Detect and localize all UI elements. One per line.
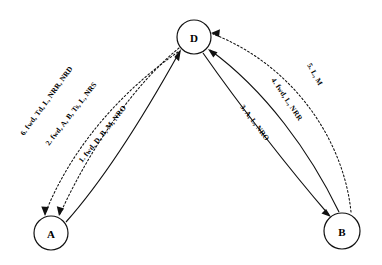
node-b-label: B [338, 226, 346, 238]
node-b[interactable]: B [324, 213, 360, 249]
edge-6-arrowhead [41, 207, 49, 216]
edges-layer [41, 29, 351, 222]
edge-5-path [213, 34, 351, 212]
edge-2-path [60, 48, 179, 214]
node-d[interactable]: D [177, 20, 211, 54]
diagram-canvas: 6. fwd, Td, L, NRR, NRD 2. fwd, A, B, Ts… [0, 0, 382, 265]
node-a[interactable]: A [34, 216, 68, 250]
edge-labels-layer: 6. fwd, Td, L, NRR, NRD 2. fwd, A, B, Ts… [18, 62, 324, 165]
nodes-layer: D A B [34, 20, 360, 250]
node-a-label: A [47, 228, 55, 240]
edge-5-label: 5. L, M [305, 62, 325, 87]
edge-1 [66, 49, 181, 222]
edge-5 [211, 29, 351, 212]
diagram-svg: 6. fwd, Td, L, NRR, NRD 2. fwd, A, B, Ts… [0, 0, 382, 265]
edge-4-label: 4. fwd, L, NRR [269, 76, 305, 123]
edge-1-label: 1. fwd, D, B, M, NRO [77, 104, 129, 165]
edge-2 [57, 48, 179, 216]
node-d-label: D [190, 32, 198, 44]
edge-4-arrowhead [208, 49, 218, 57]
edge-3-label: 3. A, L, NRO [238, 103, 271, 143]
edge-3-arrowhead [322, 209, 332, 217]
edge-2-arrowhead [57, 206, 64, 216]
edge-5-arrowhead [211, 29, 220, 37]
edge-1-path [66, 51, 180, 222]
